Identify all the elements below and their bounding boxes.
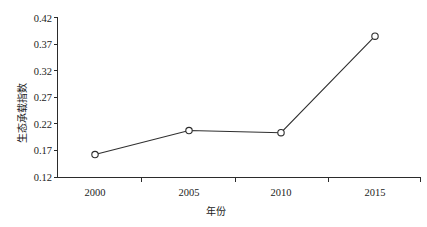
series-line [95,36,375,154]
data-point-marker [278,130,284,136]
series-markers [92,33,378,158]
y-tick-label: 0.32 [34,66,52,77]
data-series-ecological-carrying-index [92,33,378,158]
x-tick-label: 2015 [365,187,386,198]
line-chart: 生态承载指数 0.42 0.37 0.32 0.27 0.22 0.17 0.1… [0,0,427,227]
y-tick-label: 0.17 [34,145,52,156]
chart-plot-area: 生态承载指数 0.42 0.37 0.32 0.27 0.22 0.17 0.1… [0,0,427,227]
y-tick-label: 0.37 [34,39,52,50]
data-point-marker [92,151,98,157]
data-point-marker [186,127,192,133]
x-tick-label: 2005 [179,187,200,198]
data-point-marker [372,33,378,39]
x-tick-label: 2000 [85,187,106,198]
y-axis-title: 生态承载指数 [16,83,28,143]
y-tick-label: 0.42 [34,13,52,24]
y-tick-label: 0.12 [34,172,52,183]
x-tick-label: 2010 [271,187,292,198]
x-axis-title: 年份 [206,205,226,217]
y-tick-label: 0.27 [34,92,52,103]
y-tick-label: 0.22 [34,119,52,130]
